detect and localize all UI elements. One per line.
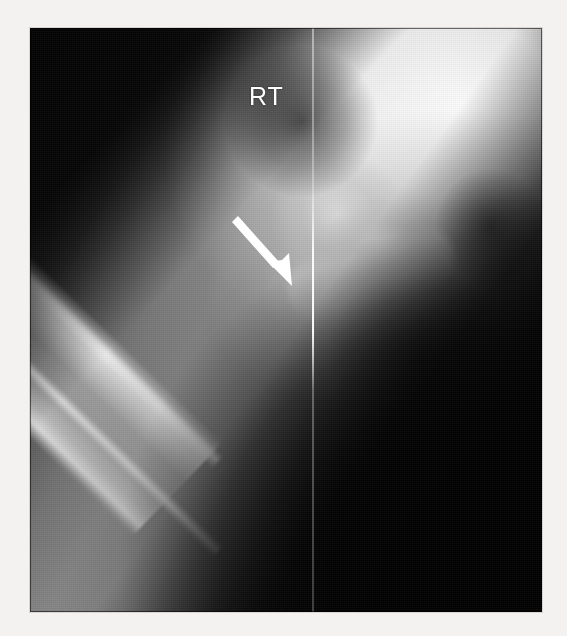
- page-root: RT: [0, 0, 567, 636]
- film-edge: [30, 28, 542, 612]
- radiograph-film: RT: [30, 28, 542, 612]
